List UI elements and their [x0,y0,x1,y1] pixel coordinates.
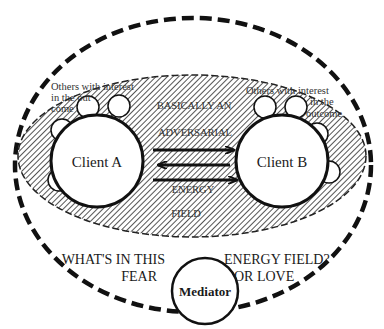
question-right-line1: ENERGY FIELD? [224,252,330,267]
others-right-line2: in the [310,96,334,107]
center-text-line1: BASICALLY AN [157,100,232,111]
question-left-line2: FEAR [121,269,157,284]
question-right-line2: OR LOVE [234,269,294,284]
others-right-line3: outcome [306,108,342,119]
client-a-label: Client A [72,154,123,170]
others-left-line3: come [51,103,74,114]
others-right-line1: Others with interest [246,85,329,96]
stakeholder-circle [108,95,130,117]
question-left-line1: WHAT'S IN THIS [62,252,165,267]
mediation-diagram: Client A Client B Mediator Others with i… [0,0,384,329]
others-left-line2: in the out [51,92,91,103]
center-text-line2: ADVERSARIAL [158,127,232,138]
mediator-label: Mediator [179,284,231,299]
center-text-line3: ENERGY [172,184,215,195]
others-left-line1: Others with interest [51,81,134,92]
center-text-line4: FIELD [171,208,201,219]
client-b-label: Client B [257,154,307,170]
